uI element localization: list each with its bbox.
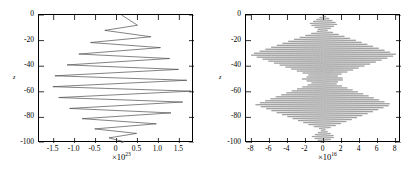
y-tick-label: -100 [12,138,34,146]
left-exponent-value: 23 [125,151,131,157]
right-multiply-icon: ×10 [318,152,331,162]
right-plot-curve [246,15,401,143]
figure-root: z 0-20-40-60-80-100 -1.5-1.0-0.500.51.01… [0,0,412,180]
left-panel: z 0-20-40-60-80-100 -1.5-1.0-0.500.51.01… [0,0,206,180]
y-tick-label: -60 [12,87,34,95]
right-y-axis-label: z [219,74,221,80]
left-x-axis-exponent: ×1023 [112,152,131,162]
y-tick-label: -40 [219,61,241,69]
x-tick-label: 8 [381,145,409,153]
left-y-axis-label: z [13,74,15,80]
y-tick-label: 0 [12,10,34,18]
x-tick-label: 1.5 [164,145,192,153]
y-tick-label: -80 [12,112,34,120]
left-plot-curve [39,15,194,143]
right-x-axis-exponent: ×1016 [318,152,337,162]
right-panel: z 0-20-40-60-80-100 -8-6-4-202468 ×1016 [206,0,412,180]
y-tick-label: -20 [12,36,34,44]
y-tick-label: -80 [219,112,241,120]
modulated-oscillation-waveform [251,15,396,143]
right-plot-frame [245,14,400,142]
y-tick-label: -40 [12,61,34,69]
right-exponent-value: 16 [331,151,337,157]
y-tick-label: 0 [219,10,241,18]
y-tick-label: -20 [219,36,241,44]
zigzag-waveform [53,15,191,143]
left-plot-frame [38,14,193,142]
left-multiply-icon: ×10 [112,152,125,162]
y-tick-label: -60 [219,87,241,95]
